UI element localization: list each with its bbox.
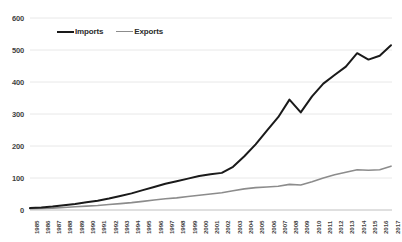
chart-legend: Imports Exports [57,27,163,36]
series-line-imports [30,45,391,208]
x-axis-tick-label: 2016 [382,221,389,234]
y-axis-tick-label: 400 [2,78,24,87]
x-axis-tick-label: 2015 [371,221,378,234]
x-axis-tick-label: 2011 [326,221,333,234]
y-axis-tick-label: 600 [2,14,24,23]
legend-label-exports: Exports [134,27,163,36]
x-axis-tick-label: 2014 [360,221,367,234]
x-axis-tick-label: 2005 [258,221,265,234]
x-axis-tick-label: 2001 [213,221,220,234]
x-axis-tick-label: 2008 [292,221,299,234]
x-axis-tick-label: 2002 [224,221,231,234]
x-axis-tick-label: 1989 [78,221,85,234]
x-axis-tick-label: 1987 [55,221,62,234]
legend-item-imports: Imports [57,27,103,36]
x-axis-tick-label: 1985 [33,221,40,234]
x-axis-tick-label: 1986 [44,221,51,234]
x-axis-tick-label: 1995 [145,221,152,234]
x-axis-tick-label: 1990 [89,221,96,234]
x-axis-tick-label: 1994 [134,221,141,234]
series-imports-line [30,45,391,208]
legend-label-imports: Imports [75,27,103,36]
x-axis-tick-label: 1997 [168,221,175,234]
x-axis-tick-label: 1996 [157,221,164,234]
x-axis-tick-label: 2013 [348,221,355,234]
x-axis-tick-label: 2007 [281,221,288,234]
y-axis-tick-label: 300 [2,110,24,119]
x-axis-tick-label: 1991 [100,221,107,234]
legend-item-exports: Exports [116,27,163,36]
chart-plot-area [0,0,402,242]
x-axis-tick-label: 2017 [394,221,401,234]
gridlines [30,18,392,210]
x-axis-tick-label: 2010 [315,221,322,234]
x-axis-tick-label: 1998 [179,221,186,234]
legend-swatch-exports-icon [116,31,133,32]
chart-container: 0100200300400500600 19851986198719881989… [0,0,402,242]
y-axis-tick-label: 200 [2,142,24,151]
x-axis-tick-label: 1992 [112,221,119,234]
y-axis-tick-label: 0 [2,206,24,215]
x-axis-tick-label: 1999 [191,221,198,234]
x-axis-tick-label: 1988 [66,221,73,234]
x-axis-tick-label: 2012 [337,221,344,234]
x-axis-tick-label: 1993 [123,221,130,234]
x-axis-tick-label: 2006 [270,221,277,234]
y-axis-tick-label: 100 [2,174,24,183]
legend-swatch-imports-icon [57,31,74,33]
x-axis-tick-label: 2003 [236,221,243,234]
y-axis-tick-label: 500 [2,46,24,55]
x-axis-tick-label: 2000 [202,221,209,234]
x-axis-tick-label: 2004 [247,221,254,234]
x-axis-tick-label: 2009 [303,221,310,234]
